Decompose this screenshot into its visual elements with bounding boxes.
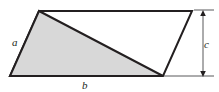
label-height-c: c xyxy=(204,38,209,50)
label-side-b: b xyxy=(82,79,88,91)
geometry-figure-svg: a b c xyxy=(0,0,219,92)
label-side-a: a xyxy=(12,36,18,48)
geometry-figure-container: a b c xyxy=(0,0,219,92)
